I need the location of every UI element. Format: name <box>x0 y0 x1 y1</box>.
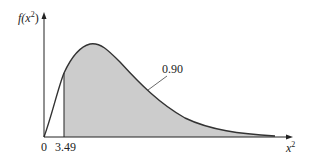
area-label: 0.90 <box>162 63 183 75</box>
x-axis-label-sup: 2 <box>291 140 295 149</box>
chi-square-density-chart <box>0 0 309 161</box>
origin-tick-label: 0 <box>41 141 47 153</box>
x-axis-arrow-icon <box>286 135 293 140</box>
x-axis-label: x2 <box>286 142 295 154</box>
shaded-area <box>64 44 275 137</box>
y-axis-arrow-icon <box>42 12 47 19</box>
critical-value-tick-label: 3.49 <box>55 141 76 153</box>
y-axis-label-close: ) <box>35 11 39 25</box>
area-label-leader <box>148 76 167 90</box>
y-axis-label: f(x2) <box>18 12 39 24</box>
y-axis-label-func: f(x <box>18 11 31 25</box>
